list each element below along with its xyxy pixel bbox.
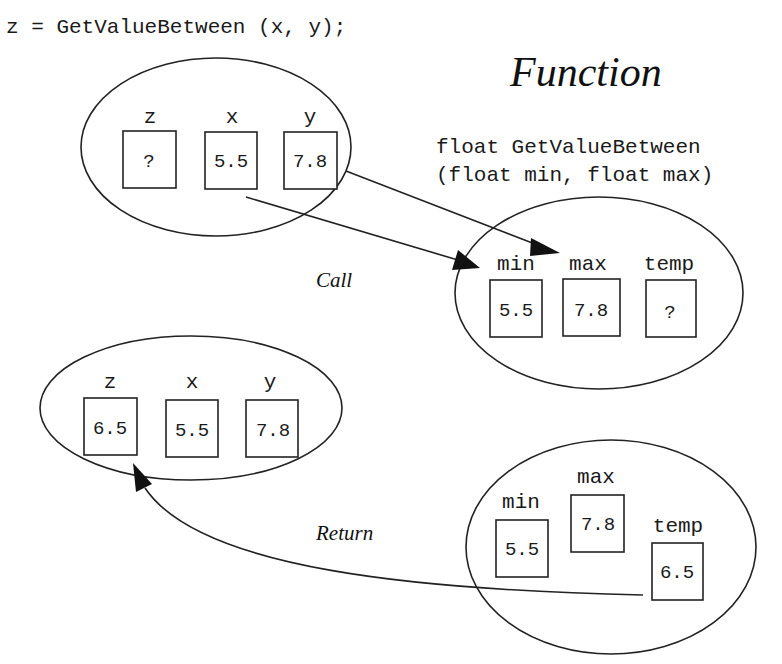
function-title: Function: [509, 49, 662, 95]
callee-scope-return: min 5.5 max 7.8 temp 6.5: [466, 440, 756, 654]
var-value: 5.5: [505, 539, 539, 561]
call-statement: z = GetValueBetween (x, y);: [6, 16, 346, 39]
var-name: max: [577, 466, 615, 489]
signature-line-1: float GetValueBetween: [436, 136, 701, 159]
var-value: 5.5: [499, 300, 533, 322]
signature-line-2: (float min, float max): [436, 164, 713, 187]
caller-scope-before: z ? x 5.5 y 7.8: [81, 58, 351, 236]
arrow-temp-to-z: [145, 488, 643, 595]
var-value: 7.8: [574, 300, 608, 322]
var-value: ?: [143, 151, 154, 173]
var-name: temp: [653, 515, 703, 538]
arrowhead-icon: [452, 250, 480, 270]
function-call-diagram: z = GetValueBetween (x, y); Function flo…: [0, 0, 782, 664]
var-name: z: [144, 106, 157, 129]
var-name: z: [104, 371, 117, 394]
return-arrow: [133, 463, 643, 595]
var-value: 7.8: [581, 514, 615, 536]
var-value: 7.8: [256, 420, 290, 442]
var-value: 5.5: [175, 420, 209, 442]
var-name: y: [304, 106, 317, 129]
return-label: Return: [315, 521, 373, 545]
call-label: Call: [316, 268, 352, 292]
var-value: 7.8: [293, 151, 327, 173]
callee-scope-call: min 5.5 max 7.8 temp ?: [455, 197, 743, 389]
var-name: min: [497, 253, 535, 276]
var-value: 5.5: [214, 151, 248, 173]
var-name: min: [502, 491, 540, 514]
var-name: x: [226, 106, 239, 129]
var-value: 6.5: [660, 562, 694, 584]
var-name: max: [569, 253, 607, 276]
var-value: 6.5: [93, 418, 127, 440]
arrowhead-icon: [530, 238, 560, 256]
var-name: temp: [644, 253, 694, 276]
caller-scope-after: z 6.5 x 5.5 y 7.8: [40, 336, 342, 480]
var-name: x: [186, 371, 199, 394]
var-name: y: [264, 371, 277, 394]
arrow-x-to-min: [246, 197, 468, 263]
var-value: ?: [664, 302, 675, 324]
